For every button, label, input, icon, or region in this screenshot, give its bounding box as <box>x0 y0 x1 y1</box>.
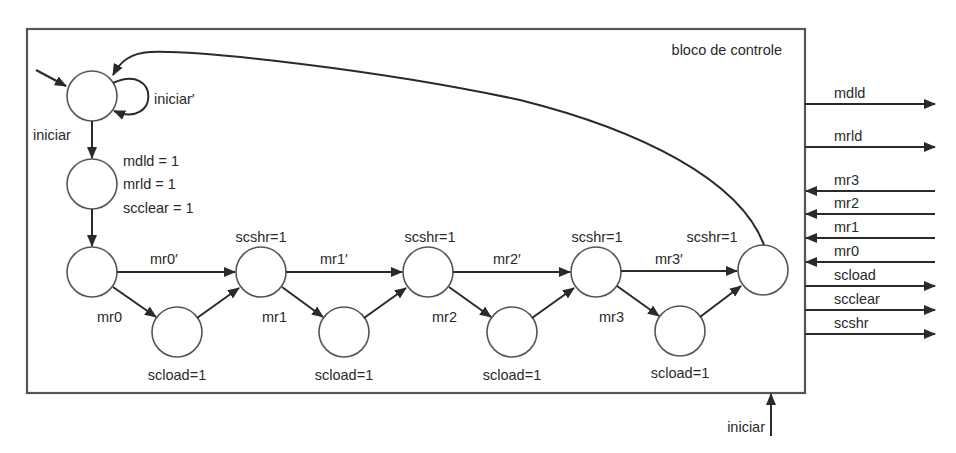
shift-label-1: scshr=1 <box>404 229 455 245</box>
state-check-mr0 <box>67 247 117 297</box>
load-to-shift-arrow-3 <box>700 286 741 317</box>
control-block-fsm-diagram: bloco de controle iniciar′ iniciar mdld … <box>0 0 956 453</box>
state-shift-2 <box>571 247 621 297</box>
state-load-1 <box>319 307 369 357</box>
skip-label-3: mr3′ <box>655 251 683 267</box>
take-label-3: mr3 <box>599 309 624 325</box>
self-loop-arrow <box>113 79 148 114</box>
load-to-shift-arrow-0 <box>197 288 239 318</box>
s0-exit-label: iniciar <box>33 127 71 143</box>
load-to-shift-arrow-2 <box>532 288 574 318</box>
state-load-3 <box>655 306 705 356</box>
load-to-shift-arrow-1 <box>364 288 406 318</box>
return-to-start-arrow <box>113 52 764 245</box>
state-load-0 <box>152 307 202 357</box>
take-label-0: mr0 <box>97 309 122 325</box>
take-label-1: mr1 <box>262 309 287 325</box>
s1-output-2: scclear = 1 <box>123 200 194 216</box>
port-iniciar-label: iniciar <box>727 419 765 435</box>
port-mr0-label: mr0 <box>834 243 859 259</box>
state-shift-1 <box>403 247 453 297</box>
port-mr3-label: mr3 <box>834 172 859 188</box>
s1-output-1: mrld = 1 <box>123 176 176 192</box>
shift-label-0: scshr=1 <box>235 229 286 245</box>
s1-output-0: mdld = 1 <box>123 153 179 169</box>
initial-state-arrow <box>36 70 66 86</box>
port-mrld-label: mrld <box>834 128 862 144</box>
state-shift-0 <box>236 247 286 297</box>
port-mdld-label: mdld <box>834 85 865 101</box>
load-label-2: scload=1 <box>483 367 541 383</box>
port-scclear-label: scclear <box>834 291 880 307</box>
load-label-3: scload=1 <box>651 365 709 381</box>
port-mr1-label: mr1 <box>834 219 859 235</box>
port-mr2-label: mr2 <box>834 195 859 211</box>
shift-label-3: scshr=1 <box>686 229 737 245</box>
self-loop-label: iniciar′ <box>154 91 195 107</box>
load-label-1: scload=1 <box>315 367 373 383</box>
take-arrow-1 <box>282 287 323 317</box>
block-title: bloco de controle <box>672 42 782 58</box>
take-label-2: mr2 <box>432 309 457 325</box>
skip-label-0: mr0′ <box>150 251 178 267</box>
shift-label-2: scshr=1 <box>571 229 622 245</box>
skip-label-2: mr2′ <box>493 251 521 267</box>
load-label-0: scload=1 <box>148 367 206 383</box>
port-scload-label: scload <box>834 267 876 283</box>
port-scshr-label: scshr <box>834 315 869 331</box>
state-shift-3 <box>738 245 788 295</box>
state-load-2 <box>487 307 537 357</box>
skip-label-1: mr1′ <box>320 251 348 267</box>
state-s1 <box>67 159 117 209</box>
state-s0 <box>67 71 117 121</box>
